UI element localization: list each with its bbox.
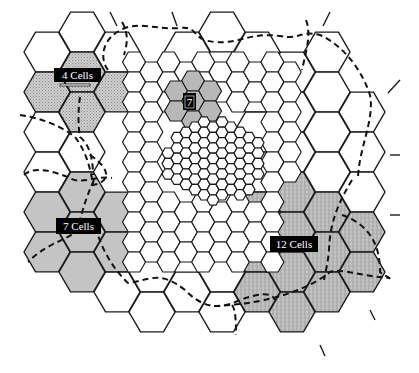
- small-cell: [252, 169, 264, 179]
- label-7-small: 7: [183, 93, 196, 110]
- label-12-cells-text: 12 Cells: [276, 238, 312, 250]
- medium-cell: [140, 162, 163, 182]
- cell-cluster-diagram: 4 Cells 7 7 Cells 12 Cells: [0, 0, 419, 373]
- small-cell: [243, 184, 255, 194]
- medium-cell: [140, 122, 163, 142]
- medium-cell: [261, 192, 284, 212]
- medium-cell: [278, 162, 301, 182]
- small-cell: [252, 138, 264, 148]
- label-4-cells-text: 4 Cells: [62, 69, 93, 81]
- label-12-cells: 12 Cells: [270, 236, 318, 252]
- cell-edge-stub: [320, 345, 325, 356]
- medium-cell: [278, 102, 301, 122]
- medium-cell: [261, 252, 284, 272]
- cell-edge-stub: [172, 12, 177, 26]
- small-cell: [252, 158, 264, 168]
- cell-edge-stub: [110, 12, 117, 26]
- medium-cell: [278, 82, 301, 102]
- label-7-cells: 7 Cells: [56, 218, 101, 234]
- cell-edge-stub: [323, 12, 330, 26]
- cell-edge-stub: [370, 310, 375, 320]
- small-cell: [252, 148, 264, 158]
- medium-cell: [278, 122, 301, 142]
- label-7-cells-text: 7 Cells: [63, 220, 94, 232]
- medium-cell: [278, 62, 301, 82]
- cell-edge-stub: [388, 80, 400, 93]
- medium-cell: [278, 142, 301, 162]
- medium-cell: [261, 212, 284, 232]
- label-7-small-text: 7: [187, 96, 193, 108]
- medium-cell: [140, 142, 163, 162]
